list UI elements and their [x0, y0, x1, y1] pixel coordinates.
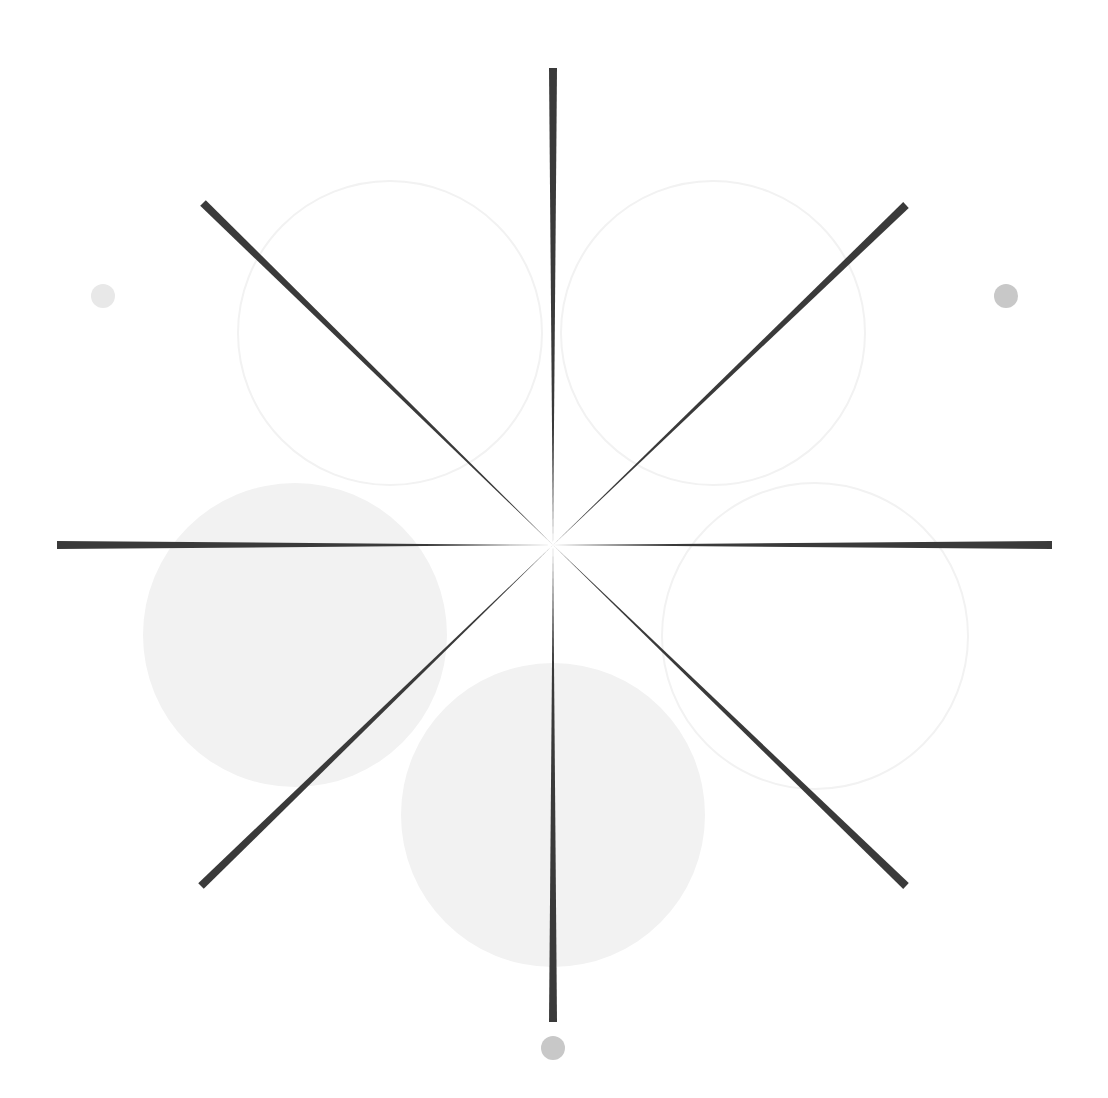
dot-left — [91, 284, 115, 308]
circle-left — [143, 483, 447, 787]
figure-canvas — [0, 0, 1108, 1098]
radial-starburst-figure — [0, 0, 1108, 1098]
spokes-group — [57, 68, 1052, 1022]
dot-right — [994, 284, 1018, 308]
dot-bottom — [541, 1036, 565, 1060]
